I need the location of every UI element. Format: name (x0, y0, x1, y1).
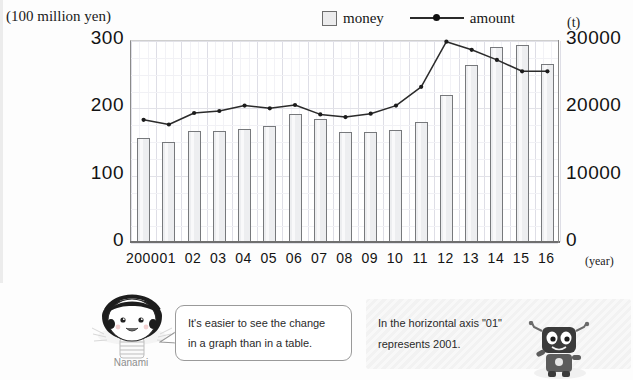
line-point-15 (520, 69, 524, 73)
x-tick-10: 10 (382, 250, 408, 266)
y-left-tick-200: 200 (40, 94, 124, 116)
robot-character-illustration (520, 321, 592, 379)
chart-legend: money amount (322, 8, 515, 28)
line-point-02 (192, 111, 196, 115)
line-point-13 (470, 48, 474, 52)
line-point-06 (293, 103, 297, 107)
legend-item-amount: amount (410, 10, 515, 27)
line-point-01 (167, 122, 171, 126)
line-point-04 (243, 104, 247, 108)
bottom-panel: Nanami It's easier to see the change in … (0, 283, 633, 380)
speech-bubble-line-1: It's easier to see the change (188, 313, 346, 333)
x-tick-03: 03 (205, 250, 231, 266)
nanami-name-label: Nanami (99, 357, 163, 368)
speech-bubble-text: It's easier to see the change in a graph… (188, 313, 346, 353)
y-right-tick-0: 0 (566, 229, 577, 251)
legend-square-icon (322, 11, 337, 26)
x-tick-08: 08 (332, 250, 358, 266)
grid-line-horizontal (131, 243, 558, 244)
legend-label-amount: amount (470, 10, 515, 27)
legend-item-money: money (322, 10, 384, 27)
x-axis-unit-label: (year) (585, 254, 614, 269)
y-axis-left-ticks: 3002001000 (40, 0, 124, 260)
line-point-08 (343, 115, 347, 119)
nanami-character-illustration (86, 284, 178, 362)
line-point-09 (369, 112, 373, 116)
line-point-2000 (142, 118, 146, 122)
x-tick-14: 14 (483, 250, 509, 266)
line-point-10 (394, 104, 398, 108)
x-tick-12: 12 (432, 250, 458, 266)
line-point-05 (268, 106, 272, 110)
y-right-tick-10000: 10000 (566, 162, 621, 184)
plot-area (130, 40, 559, 242)
line-point-14 (495, 58, 499, 62)
x-tick-01: 01 (155, 250, 181, 266)
x-tick-04: 04 (231, 250, 257, 266)
line-series-amount (131, 41, 560, 243)
line-point-07 (318, 112, 322, 116)
x-axis-line (130, 241, 560, 243)
y-right-tick-30000: 30000 (566, 27, 621, 49)
nanami-speech-bubble: It's easier to see the change in a graph… (175, 305, 352, 361)
x-tick-09: 09 (357, 250, 383, 266)
y-axis-right-line (558, 40, 559, 243)
line-point-16 (545, 69, 549, 73)
x-tick-11: 11 (407, 250, 433, 266)
y-right-tick-20000: 20000 (566, 94, 621, 116)
chart-page: (100 million yen) (t) money amount 30020… (0, 0, 633, 380)
y-axis-right-ticks: 3000020000100000 (566, 0, 633, 260)
y-left-tick-300: 300 (40, 27, 124, 49)
x-tick-16: 16 (533, 250, 559, 266)
x-tick-06: 06 (281, 250, 307, 266)
x-tick-07: 07 (306, 250, 332, 266)
x-tick-02: 02 (180, 250, 206, 266)
grid-line-vertical (560, 41, 561, 242)
y-left-tick-100: 100 (40, 162, 124, 184)
x-tick-13: 13 (458, 250, 484, 266)
line-point-11 (419, 85, 423, 89)
line-point-03 (217, 109, 221, 113)
legend-label-money: money (343, 10, 384, 27)
x-tick-15: 15 (508, 250, 534, 266)
legend-line-marker-icon (410, 13, 464, 23)
y-left-tick-0: 0 (40, 229, 124, 251)
speech-bubble-line-2: in a graph than in a table. (188, 333, 346, 353)
line-point-12 (444, 40, 448, 44)
x-tick-05: 05 (256, 250, 282, 266)
